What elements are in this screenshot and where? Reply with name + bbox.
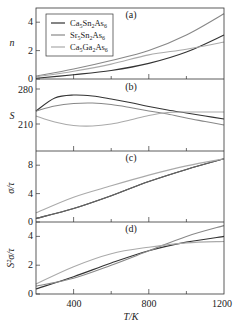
ytick-c-0: 0 [28, 216, 33, 227]
xlabel: T/K [123, 311, 139, 322]
ytick-d-2: 2 [28, 259, 33, 270]
ytick-a-0: 0 [28, 73, 33, 84]
legend-label: Ca5Sn2As6 [70, 18, 107, 29]
ytick-a-2: 2 [28, 45, 33, 56]
ylabel-c: σ/τ [5, 182, 16, 194]
ytick-d-0: 0 [28, 288, 33, 299]
xtick-1200: 1200 [212, 298, 232, 309]
ytick-d-4: 4 [28, 230, 33, 241]
ytick-b-280: 280 [18, 84, 33, 95]
xtick-800: 800 [142, 298, 157, 309]
ylabel-d: S²σ/τ [5, 248, 16, 268]
series-line-ca5ga2as6 [36, 241, 224, 283]
series-line-sr5sn2as6 [36, 159, 224, 219]
panel-label-a: (a) [125, 9, 136, 21]
ytick-a-4: 4 [28, 16, 33, 27]
legend-label: Ca5Ga2As6 [70, 42, 108, 53]
legend-label: Sr5Sn2As6 [70, 30, 105, 41]
panel-label-b: (b) [125, 81, 137, 93]
figure: (a) (b) (c) (d) n S σ/τ S²σ/τ 4 2 0 280 … [0, 0, 241, 324]
panel-label-d: (d) [125, 223, 137, 235]
ylabel-b: S [10, 110, 15, 121]
ytick-c-4: 4 [28, 188, 33, 199]
ytick-b-210: 210 [18, 119, 33, 130]
series-line-sr5sn2as6 [36, 226, 224, 286]
xtick-400: 400 [67, 298, 82, 309]
ylabel-a: n [10, 37, 15, 48]
ytick-c-8: 8 [28, 159, 33, 170]
legend: Ca5Sn2As6Sr5Sn2As6Ca5Ga2As6 [46, 14, 113, 56]
series-line-ca5sn2as6 [36, 236, 224, 289]
panel-label-c: (c) [125, 152, 136, 164]
